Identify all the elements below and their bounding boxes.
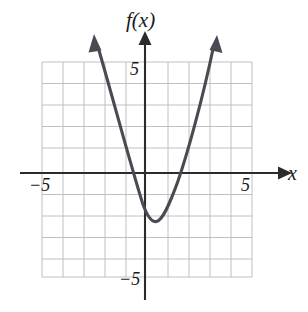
grid-lines — [42, 62, 252, 277]
y-axis-label: f(x) — [126, 10, 155, 31]
x-tick-label-negative-5: −5 — [29, 176, 50, 194]
curve-arrow-left — [89, 34, 102, 53]
y-axis — [139, 31, 152, 300]
x-tick-label-positive-5: 5 — [241, 176, 250, 194]
x-axis-label: x — [288, 163, 297, 183]
coordinate-plane — [0, 0, 308, 312]
x-axis — [20, 167, 292, 180]
y-tick-label-negative-5: −5 — [119, 270, 140, 288]
curve-arrow-right — [210, 35, 223, 53]
y-tick-label-positive-5: 5 — [130, 60, 139, 78]
graph-figure: f(x) x −5 5 5 −5 — [0, 0, 308, 312]
